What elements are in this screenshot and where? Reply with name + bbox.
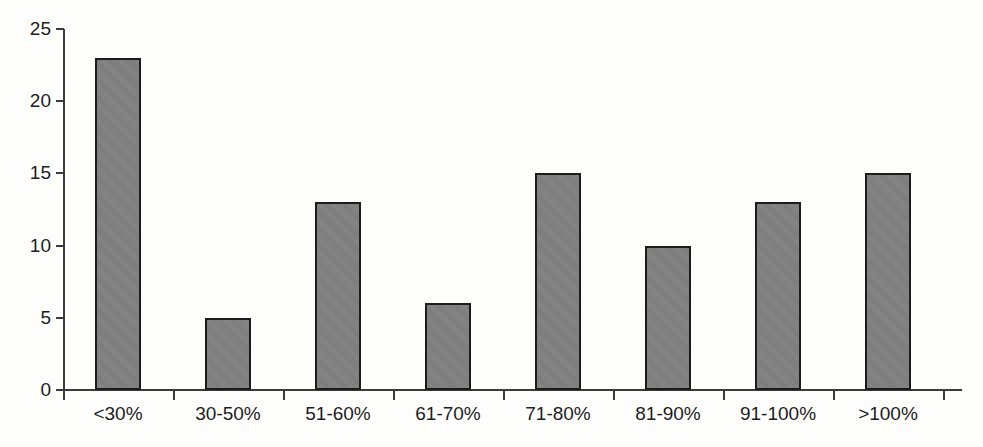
bar-fill-texture [97,60,139,388]
x-tick [723,391,725,400]
y-tick-label: 5 [11,308,51,327]
y-axis-line [63,29,65,392]
bar [95,58,141,390]
bar-fill-texture [427,305,469,388]
bar [425,303,471,390]
y-tick-15 [56,172,64,174]
bar [645,246,691,390]
y-tick-label: 15 [11,163,51,182]
bar-fill-texture [867,175,909,388]
bar-fill-texture [207,320,249,388]
x-tick [393,391,395,400]
x-tick [283,391,285,400]
x-tick [613,391,615,400]
x-axis-line [63,389,962,391]
y-tick-25 [56,28,64,30]
x-axis-label: >100% [813,404,963,425]
bar-fill-texture [537,175,579,388]
y-tick-label: 20 [11,91,51,110]
y-tick-20 [56,100,64,102]
bar [535,173,581,390]
bar-fill-texture [757,204,799,388]
y-tick-5 [56,317,64,319]
x-tick [503,391,505,400]
plot-area: 0510152025 <30%30-50%51-60%61-70%71-80%8… [0,0,983,447]
y-tick-label: 25 [11,19,51,38]
y-tick-label: 0 [11,380,51,399]
bar [205,318,251,390]
bar [315,202,361,390]
x-tick [943,391,945,400]
x-tick [833,391,835,400]
x-tick [63,391,65,400]
bar-fill-texture [317,204,359,388]
y-tick-10 [56,245,64,247]
x-tick [173,391,175,400]
y-tick-label: 10 [11,236,51,255]
bar [865,173,911,390]
bar-fill-texture [647,248,689,388]
bar [755,202,801,390]
bar-chart: 0510152025 <30%30-50%51-60%61-70%71-80%8… [0,0,983,447]
